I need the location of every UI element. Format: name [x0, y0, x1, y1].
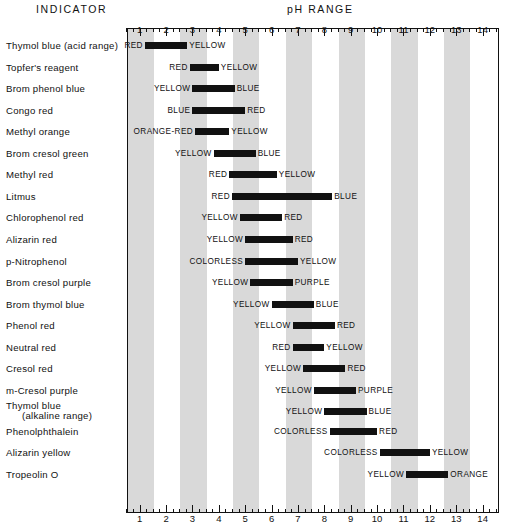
indicator-row[interactable]: Alizarin redYELLOWRED	[0, 234, 508, 252]
acid-color-label: YELLOW	[212, 277, 251, 288]
transition-range-bar[interactable]	[406, 471, 448, 478]
axis-tick-label: 11	[399, 513, 409, 523]
transition-range-bar[interactable]	[195, 128, 229, 135]
indicator-name-label: Cresol red	[6, 363, 122, 374]
axis-tick-minor	[265, 28, 266, 32]
transition-range-bar[interactable]	[145, 42, 187, 49]
acid-color-label: YELLOW	[275, 385, 314, 396]
indicator-name-label: Neutral red	[6, 342, 122, 353]
transition-range-bar[interactable]	[240, 214, 282, 221]
indicator-row[interactable]: Thymol blue (acid range)REDYELLOW	[0, 40, 508, 58]
acid-color-label: YELLOW	[286, 406, 325, 417]
transition-range-bar[interactable]	[232, 193, 332, 200]
axis-tick-minor	[338, 28, 339, 32]
axis-tick-minor	[285, 28, 286, 32]
transition-range-bar[interactable]	[192, 85, 234, 92]
indicator-name-label: Chlorophenol red	[6, 212, 122, 223]
transition-range-bar[interactable]	[272, 301, 314, 308]
indicator-name-label: m-Cresol purple	[6, 385, 122, 396]
indicator-name-label: Topfer's reagent	[6, 62, 122, 73]
axis-tick-minor	[469, 28, 470, 32]
indicator-row[interactable]: Thymol blue(alkaline range)YELLOWBLUE	[0, 406, 508, 424]
axis-tick-minor	[232, 28, 233, 32]
indicator-row[interactable]: Chlorophenol redYELLOWRED	[0, 212, 508, 230]
acid-color-label: YELLOW	[265, 363, 304, 374]
transition-range-bar[interactable]	[214, 150, 256, 157]
indicator-name-line2: (alkaline range)	[6, 411, 122, 421]
axis-tick-label: 2	[163, 513, 168, 523]
transition-range-bar[interactable]	[192, 107, 245, 114]
indicator-row[interactable]: Cresol redYELLOWRED	[0, 363, 508, 381]
transition-range-bar[interactable]	[229, 171, 276, 178]
axis-tick-minor	[344, 28, 345, 32]
acid-color-label: YELLOW	[201, 212, 240, 223]
base-color-label: BLUE	[314, 299, 339, 310]
acid-color-label: RED	[169, 62, 190, 73]
acid-color-label: YELLOW	[368, 469, 407, 480]
indicator-row[interactable]: Brom thymol blueYELLOWBLUE	[0, 299, 508, 317]
indicator-row[interactable]: Brom phenol blueYELLOWBLUE	[0, 83, 508, 101]
axis-tick-label: 4	[216, 24, 221, 35]
axis-tick-minor	[489, 28, 490, 32]
transition-range-bar[interactable]	[380, 449, 430, 456]
axis-tick-label: 14	[477, 513, 488, 523]
transition-range-bar[interactable]	[303, 365, 345, 372]
acid-color-label: RED	[212, 191, 233, 202]
transition-range-bar[interactable]	[314, 387, 356, 394]
indicator-row[interactable]: Congo redBLUERED	[0, 105, 508, 123]
transition-range-bar[interactable]	[293, 322, 335, 329]
indicator-row[interactable]: Phenol redYELLOWRED	[0, 320, 508, 338]
indicator-row[interactable]: Brom cresol purpleYELLOWPURPLE	[0, 277, 508, 295]
indicator-row[interactable]: Alizarin yellowCOLORLESSYELLOW	[0, 447, 508, 465]
axis-tick-minor	[239, 28, 240, 32]
axis-tick-label: 14	[477, 24, 488, 35]
axis-tick-minor	[463, 28, 464, 32]
axis-tick-minor	[305, 28, 306, 32]
acid-color-label: YELLOW	[233, 299, 272, 310]
axis-tick-label: 6	[269, 513, 274, 523]
indicator-row[interactable]: Topfer's reagentREDYELLOW	[0, 62, 508, 80]
base-color-label: RED	[377, 426, 398, 437]
axis-tick-minor	[496, 28, 497, 32]
base-color-label: YELLOW	[324, 342, 363, 353]
indicator-row[interactable]: Brom cresol greenYELLOWBLUE	[0, 148, 508, 166]
indicator-row[interactable]: Methyl orangeORANGE-REDYELLOW	[0, 126, 508, 144]
indicator-row[interactable]: Neutral redREDYELLOW	[0, 342, 508, 360]
transition-range-bar[interactable]	[190, 64, 219, 71]
acid-color-label: BLUE	[167, 105, 192, 116]
indicator-name-label: Congo red	[6, 105, 122, 116]
indicator-row[interactable]: Methyl redREDYELLOW	[0, 169, 508, 187]
indicator-row[interactable]: p-NitrophenolCOLORLESSYELLOW	[0, 256, 508, 274]
base-color-label: YELLOW	[430, 447, 469, 458]
axis-tick-minor	[186, 28, 187, 32]
axis-tick-minor	[291, 28, 292, 32]
indicator-row[interactable]: LitmusREDBLUE	[0, 191, 508, 209]
indicator-row[interactable]: PhenolphthaleinCOLORLESSRED	[0, 426, 508, 444]
base-color-label: BLUE	[332, 191, 357, 202]
indicator-name-label: Tropeolin O	[6, 469, 122, 480]
base-color-label: PURPLE	[293, 277, 330, 288]
axis-tick-label: 1	[137, 24, 142, 35]
base-color-label: YELLOW	[229, 126, 268, 137]
axis-tick-minor	[206, 28, 207, 32]
axis-tick-label: 3	[190, 24, 195, 35]
transition-range-bar[interactable]	[293, 344, 325, 351]
indicator-name-label: Alizarin yellow	[6, 447, 122, 458]
indicator-name-label: Methyl orange	[6, 126, 122, 137]
axis-tick-minor	[153, 28, 154, 32]
base-color-label: YELLOW	[187, 40, 226, 51]
base-color-label: YELLOW	[298, 256, 337, 267]
axis-tick-minor	[225, 28, 226, 32]
transition-range-bar[interactable]	[330, 428, 377, 435]
base-color-label: RED	[293, 234, 314, 245]
base-color-label: BLUE	[235, 83, 260, 94]
indicator-row[interactable]: Tropeolin OYELLOWORANGE	[0, 469, 508, 487]
axis-tick-label: 13	[451, 24, 462, 35]
transition-range-bar[interactable]	[245, 236, 292, 243]
transition-range-bar[interactable]	[250, 279, 292, 286]
transition-range-bar[interactable]	[245, 258, 298, 265]
base-color-label: RED	[335, 320, 356, 331]
base-color-label: RED	[345, 363, 366, 374]
transition-range-bar[interactable]	[324, 408, 366, 415]
acid-color-label: YELLOW	[175, 148, 214, 159]
